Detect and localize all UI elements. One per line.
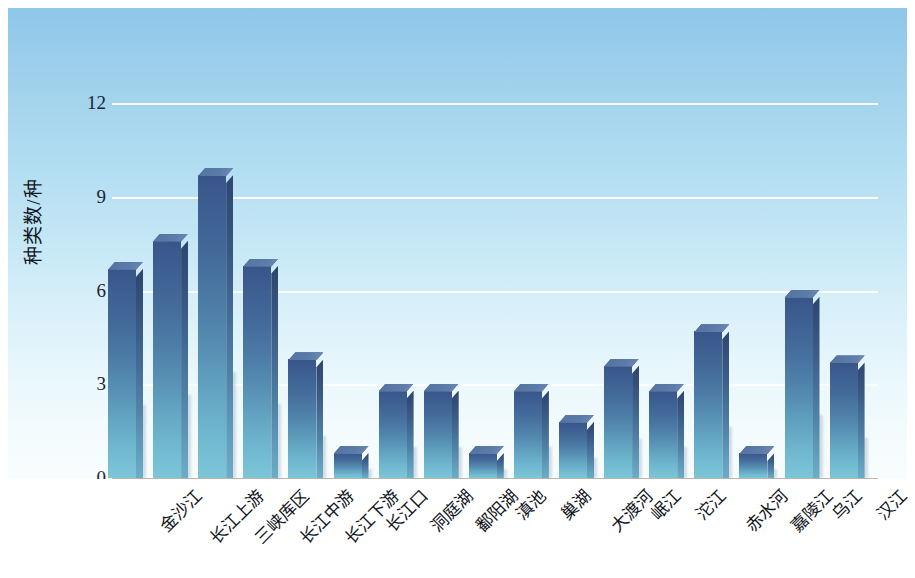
bar-front-face <box>559 422 587 478</box>
bar-赤水河 <box>694 323 729 478</box>
bar-滇池 <box>469 445 504 478</box>
bar-side-face <box>271 266 278 479</box>
bar-side-face <box>632 366 639 479</box>
bar-top-face <box>830 355 865 363</box>
bar-长江上游 <box>153 233 188 479</box>
bar-side-face <box>858 362 865 478</box>
x-tick-label-金沙江: 金沙江 <box>153 483 207 537</box>
bar-front-face <box>649 391 677 479</box>
bar-front-face <box>604 366 632 479</box>
x-axis-category-labels: 金沙江长江上游三峡库区长江中游长江下游长江口洞庭湖鄱阳湖滇池巢湖大渡河岷江沱江赤… <box>0 479 915 578</box>
bar-side-face <box>407 391 414 479</box>
x-tick-label-滇池: 滇池 <box>509 483 551 525</box>
bar-top-face <box>469 446 504 454</box>
x-tick-label-岷江: 岷江 <box>644 483 686 525</box>
bar-front-face <box>153 241 181 479</box>
bar-top-face <box>288 352 323 360</box>
bar-front-face <box>334 453 362 478</box>
bar-top-face <box>649 384 684 392</box>
bar-front-face <box>739 453 767 478</box>
bar-front-face <box>469 453 497 478</box>
bar-front-face <box>108 269 136 478</box>
bar-长江口 <box>334 445 369 478</box>
bar-长江中游 <box>243 258 278 479</box>
bar-side-face <box>226 175 233 478</box>
bar-side-face <box>316 359 323 478</box>
bar-top-face <box>198 168 233 176</box>
bar-front-face <box>830 362 858 478</box>
bar-side-face <box>677 391 684 479</box>
bar-side-face <box>542 391 549 479</box>
bar-top-face <box>334 446 369 454</box>
bar-side-face <box>587 422 594 478</box>
x-tick-label-洞庭湖: 洞庭湖 <box>424 483 478 537</box>
x-tick-label-汉江: 汉江 <box>870 483 912 525</box>
bar-side-face <box>497 453 504 478</box>
bar-front-face <box>288 359 316 478</box>
bar-大渡河 <box>559 414 594 478</box>
bar-top-face <box>379 384 414 392</box>
bar-洞庭湖 <box>379 383 414 479</box>
x-tick-label-乌江: 乌江 <box>824 483 866 525</box>
bar-side-face <box>362 453 369 478</box>
bar-top-face <box>739 446 774 454</box>
bar-巢湖 <box>514 383 549 479</box>
x-tick-label-沱江: 沱江 <box>689 483 731 525</box>
bar-series <box>8 8 907 479</box>
bar-front-face <box>424 391 452 479</box>
bar-side-face <box>767 453 774 478</box>
bar-front-face <box>243 266 271 479</box>
bar-front-face <box>694 331 722 478</box>
bar-沱江 <box>649 383 684 479</box>
bar-top-face <box>108 262 143 270</box>
bar-side-face <box>136 269 143 478</box>
bar-side-face <box>722 331 729 478</box>
bar-top-face <box>424 384 459 392</box>
bar-三峡库区 <box>198 167 233 478</box>
bar-top-face <box>153 234 188 242</box>
bar-top-face <box>604 359 639 367</box>
bar-岷江 <box>604 358 639 479</box>
bar-金沙江 <box>108 261 143 478</box>
bar-front-face <box>785 297 813 478</box>
bar-汉江 <box>830 354 865 478</box>
bar-乌江 <box>785 289 820 478</box>
bar-鄱阳湖 <box>424 383 459 479</box>
x-tick-label-巢湖: 巢湖 <box>554 483 596 525</box>
bar-front-face <box>198 175 226 478</box>
bar-top-face <box>243 259 278 267</box>
plot-area: 种类数/种 036912 <box>8 8 907 479</box>
bar-嘉陵江 <box>739 445 774 478</box>
bar-top-face <box>514 384 549 392</box>
bar-side-face <box>452 391 459 479</box>
bar-chart-figure: 种类数/种 036912 金沙江长江上游三峡库区长江中游长江下游长江口洞庭湖鄱阳… <box>0 0 915 578</box>
bar-长江下游 <box>288 351 323 478</box>
bar-front-face <box>379 391 407 479</box>
bar-top-face <box>559 415 594 423</box>
bar-top-face <box>694 324 729 332</box>
bar-side-face <box>181 241 188 479</box>
bar-top-face <box>785 290 820 298</box>
x-tick-label-赤水河: 赤水河 <box>739 483 793 537</box>
bar-front-face <box>514 391 542 479</box>
bar-side-face <box>813 297 820 478</box>
